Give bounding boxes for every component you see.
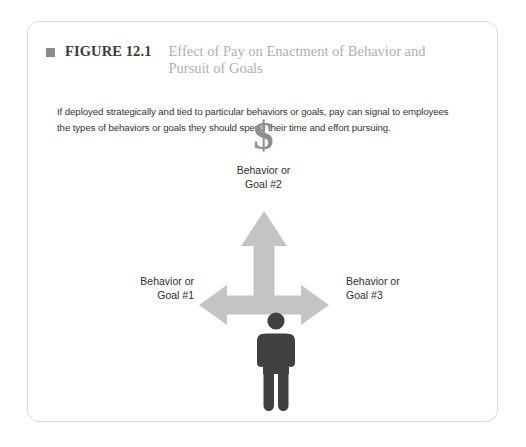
figure-header: FIGURE 12.1 Effect of Pay on Enactment o… [46, 43, 473, 77]
square-bullet-icon [46, 48, 55, 57]
diagram-arrows [28, 22, 498, 422]
node-label-top-line1: Behavior or [28, 164, 498, 178]
node-label-right: Behavior or Goal #3 [346, 275, 476, 302]
person-pictogram-icon [250, 312, 302, 412]
figure-diagram: $ Behavior or Goal #2 Behavior or Goal #… [28, 22, 498, 422]
node-label-left: Behavior or Goal #1 [64, 275, 194, 302]
horizontal-double-arrow-icon [199, 285, 329, 325]
node-label-left-line2: Goal #1 [64, 289, 194, 303]
node-label-top: Behavior or Goal #2 [28, 164, 498, 191]
figure-title: Effect of Pay on Enactment of Behavior a… [169, 43, 469, 77]
node-label-top-line2: Goal #2 [28, 178, 498, 192]
figure-caption: If deployed strategically and tied to pa… [57, 104, 455, 135]
figure-number-label: FIGURE 12.1 [65, 43, 152, 60]
up-arrow-icon [241, 211, 287, 306]
figure-card: FIGURE 12.1 Effect of Pay on Enactment o… [27, 21, 498, 422]
node-label-right-line2: Goal #3 [346, 289, 476, 303]
node-label-right-line1: Behavior or [346, 275, 476, 289]
node-label-left-line1: Behavior or [64, 275, 194, 289]
